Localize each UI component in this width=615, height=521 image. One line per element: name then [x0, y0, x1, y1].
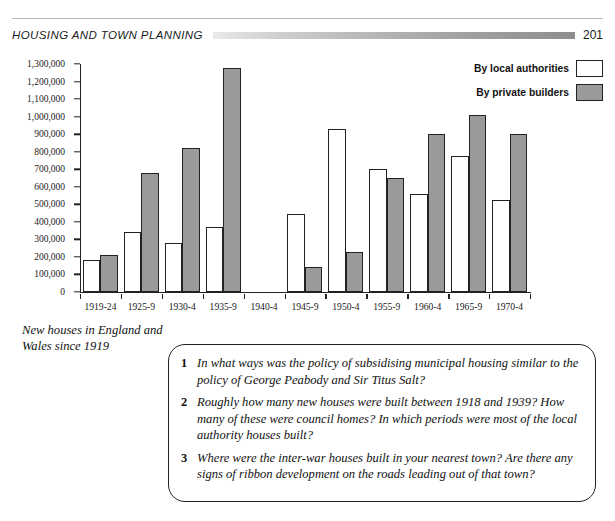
- bar-local-authorities: [83, 260, 101, 292]
- y-axis-tick-label: 900,000: [34, 129, 65, 139]
- y-axis-tick-label: 600,000: [34, 182, 65, 192]
- x-axis-tick-mark: [121, 294, 122, 299]
- bar-private-builders: [387, 178, 405, 292]
- y-axis-tick-label: 800,000: [34, 147, 65, 157]
- x-axis-tick-label: 1919-24: [80, 301, 121, 317]
- x-axis-tick-mark: [448, 294, 449, 299]
- header-gradient-bar: [213, 32, 575, 39]
- x-axis-labels: 1919-241925-91930-41935-91940-41945-9195…: [80, 301, 530, 317]
- bar-local-authorities: [206, 227, 224, 292]
- y-axis-tick-label: 1,300,000: [27, 59, 65, 69]
- question-item: 2Roughly how many new houses were built …: [181, 394, 579, 444]
- legend-label-private-builders: By private builders: [476, 87, 569, 98]
- x-axis-tick-mark: [325, 294, 326, 299]
- legend-item-private-builders: By private builders: [443, 84, 603, 101]
- x-axis-tick-label: 1950-4: [325, 301, 366, 317]
- bar-group: [80, 64, 121, 292]
- question-number: 2: [181, 394, 197, 444]
- bar-private-builders: [141, 173, 159, 292]
- x-axis-tick-label: 1960-4: [407, 301, 448, 317]
- bar-private-builders: [305, 267, 323, 292]
- legend-item-local-authorities: By local authorities: [443, 60, 603, 77]
- y-axis-tick-label: 300,000: [34, 234, 65, 244]
- x-axis-tick-mark: [162, 294, 163, 299]
- running-header: HOUSING AND TOWN PLANNING 201: [12, 26, 603, 44]
- x-axis-tick-mark: [407, 294, 408, 299]
- x-axis-tick-label: 1935-9: [203, 301, 244, 317]
- x-axis-tick-mark: [530, 294, 531, 299]
- y-axis-tick-label: 700,000: [34, 164, 65, 174]
- legend-swatch-private-builders: [576, 84, 603, 101]
- x-axis-tick-label: 1945-9: [285, 301, 326, 317]
- x-axis-tick-label: 1965-9: [448, 301, 489, 317]
- bar-private-builders: [346, 252, 364, 292]
- x-axis-tick-mark: [80, 294, 81, 299]
- x-axis-tick-mark: [203, 294, 204, 299]
- bar-local-authorities: [124, 232, 142, 293]
- bar-group: [366, 64, 407, 292]
- bar-private-builders: [510, 134, 528, 292]
- x-axis-tick-label: 1925-9: [121, 301, 162, 317]
- question-item: 3Where were the inter-war houses built i…: [181, 450, 579, 483]
- x-axis-tick-label: 1970-4: [489, 301, 530, 317]
- legend-label-local-authorities: By local authorities: [474, 63, 569, 74]
- x-axis-tick-label: 1930-4: [162, 301, 203, 317]
- x-axis-tick-label: 1955-9: [366, 301, 407, 317]
- x-axis-tick-mark: [366, 294, 367, 299]
- bar-local-authorities: [492, 200, 510, 292]
- question-text: In what ways was the policy of subsidisi…: [197, 355, 579, 388]
- bar-group: [162, 64, 203, 292]
- x-axis-tick-mark: [244, 294, 245, 299]
- bar-group: [325, 64, 366, 292]
- question-text: Roughly how many new houses were built b…: [197, 394, 579, 444]
- y-axis-tick-label: 1,200,000: [27, 77, 65, 87]
- legend-swatch-local-authorities: [576, 60, 603, 77]
- textbook-page: HOUSING AND TOWN PLANNING 201 0100,00020…: [0, 0, 615, 521]
- bar-group: [203, 64, 244, 292]
- question-item: 1In what ways was the policy of subsidis…: [181, 355, 579, 388]
- y-axis-tick-label: 1,000,000: [27, 112, 65, 122]
- x-axis-tick-mark: [285, 294, 286, 299]
- bar-local-authorities: [165, 243, 183, 292]
- y-axis-tick-label: 100,000: [34, 269, 65, 279]
- bar-private-builders: [428, 134, 446, 292]
- y-axis-tick-label: 500,000: [34, 199, 65, 209]
- page-number: 201: [583, 28, 603, 42]
- bar-local-authorities: [369, 169, 387, 292]
- header-title: HOUSING AND TOWN PLANNING: [12, 29, 203, 41]
- header-rule: [12, 18, 603, 19]
- bar-private-builders: [223, 68, 241, 292]
- question-text: Where were the inter-war houses built in…: [197, 450, 579, 483]
- bar-local-authorities: [410, 194, 428, 292]
- chart-legend: By local authorities By private builders: [443, 60, 603, 108]
- bar-local-authorities: [451, 156, 469, 292]
- bar-local-authorities: [287, 214, 305, 292]
- y-axis-tick-label: 400,000: [34, 217, 65, 227]
- question-number: 1: [181, 355, 197, 388]
- bar-private-builders: [469, 115, 487, 292]
- bar-group: [244, 64, 285, 292]
- y-axis-tick-label: 200,000: [34, 252, 65, 262]
- bar-group: [121, 64, 162, 292]
- figure-caption: New houses in England and Wales since 19…: [22, 322, 172, 354]
- bar-local-authorities: [328, 129, 346, 292]
- x-axis-tick-mark: [489, 294, 490, 299]
- y-axis-tick-label: 1,100,000: [27, 94, 65, 104]
- bar-private-builders: [100, 255, 118, 292]
- y-axis-tick-label: 0: [60, 287, 65, 297]
- x-axis-tick-label: 1940-4: [244, 301, 285, 317]
- y-axis-labels: 0100,000200,000300,000400,000500,000600,…: [0, 55, 74, 301]
- questions-box: 1In what ways was the policy of subsidis…: [168, 344, 596, 502]
- question-number: 3: [181, 450, 197, 483]
- bar-private-builders: [182, 148, 200, 292]
- bar-group: [285, 64, 326, 292]
